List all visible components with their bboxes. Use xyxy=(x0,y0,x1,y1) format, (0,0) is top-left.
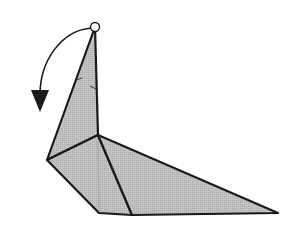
pivot-circle-icon xyxy=(91,23,100,32)
origami-model xyxy=(47,27,278,215)
origami-diagram xyxy=(0,0,295,235)
